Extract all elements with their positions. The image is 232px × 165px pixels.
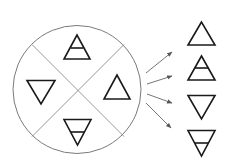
quadrant-bottom-triangle-down-with-bar-icon [64,120,91,146]
arrow-to-option-4 [146,103,171,128]
radiating-arrows [146,52,172,128]
arrow-to-option-1 [146,52,172,73]
symbol-diagram [0,0,232,165]
quadrant-top-triangle-up-with-bar-icon [64,35,90,59]
option-3-triangle-down-icon[interactable] [188,96,215,120]
arrow-to-option-2 [147,76,172,84]
arrow-to-option-3 [147,94,172,103]
option-2-triangle-up-with-bar-icon[interactable] [188,56,215,80]
option-1-triangle-up-icon[interactable] [188,22,215,45]
option-4-triangle-down-with-bar-icon[interactable] [188,131,215,157]
quadrant-right-triangle-up-icon [104,75,130,99]
quadrant-left-triangle-down-icon [27,81,55,105]
